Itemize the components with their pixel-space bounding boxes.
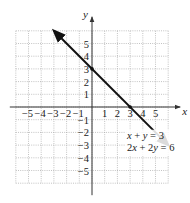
x-tick-label: −3 [47, 108, 58, 119]
intercept-point [90, 67, 94, 71]
line-x-plus-y-eq-3 [54, 31, 168, 145]
x-tick-label: −4 [35, 108, 47, 119]
x-axis-label: x [181, 105, 187, 117]
y-axis-label: y [82, 8, 88, 20]
x-tick-label: −2 [60, 108, 71, 119]
y-tick-label: −4 [78, 153, 90, 164]
x-tick-label: −5 [22, 108, 33, 119]
y-tick-label: −2 [78, 127, 89, 138]
x-tick-label: 1 [102, 108, 107, 119]
y-tick-label: −5 [78, 166, 89, 177]
y-tick-label: −3 [78, 140, 89, 151]
y-tick-label: 2 [84, 77, 89, 88]
x-tick-label: 2 [115, 108, 120, 119]
equation-label-1: x + y = 3 [126, 130, 164, 141]
intercept-point [128, 105, 132, 109]
y-tick-label: 5 [84, 39, 89, 50]
equation-label-2: 2x + 2y = 6 [127, 142, 174, 153]
y-tick-label: −1 [78, 115, 89, 126]
coordinate-plane: xy−5−4−3−2−11234554321−1−2−3−4−5x + y = … [0, 0, 190, 203]
x-tick-label: 5 [153, 108, 158, 119]
y-tick-label: 1 [84, 89, 89, 100]
